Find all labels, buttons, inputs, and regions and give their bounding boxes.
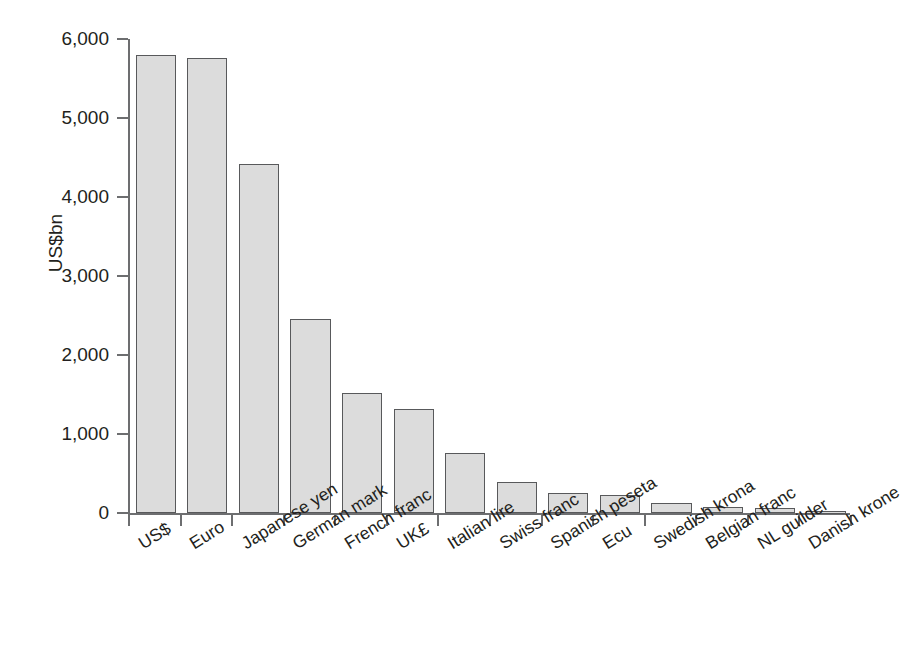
x-axis-label: Ecu bbox=[599, 520, 636, 554]
y-axis-tick-label: 3,000 bbox=[61, 265, 109, 287]
x-axis-tick bbox=[180, 515, 182, 526]
y-axis-tick-label: 0 bbox=[98, 502, 109, 524]
y-axis-tick-label: 6,000 bbox=[61, 28, 109, 50]
plot-area: 01,0002,0003,0004,0005,0006,000 bbox=[128, 39, 850, 513]
y-axis-tick-label: 1,000 bbox=[61, 423, 109, 445]
y-axis-tick-label: 5,000 bbox=[61, 107, 109, 129]
x-axis-tick bbox=[644, 515, 646, 526]
bar-us bbox=[136, 55, 176, 513]
bar-japanese-yen bbox=[239, 164, 279, 513]
y-axis-line bbox=[128, 39, 130, 513]
x-axis-tick bbox=[128, 515, 130, 526]
y-axis-tick: 1,000 bbox=[117, 433, 128, 435]
y-axis-tick: 4,000 bbox=[117, 196, 128, 198]
bar-swedish-krona bbox=[651, 503, 691, 513]
bar-italian-lire bbox=[445, 453, 485, 513]
y-axis-tick-label: 4,000 bbox=[61, 186, 109, 208]
y-axis-tick: 2,000 bbox=[117, 354, 128, 356]
y-axis-tick: 5,000 bbox=[117, 117, 128, 119]
bar-euro bbox=[187, 58, 227, 513]
x-axis-label: Euro bbox=[186, 517, 228, 554]
x-axis-tick bbox=[231, 515, 233, 526]
y-axis-tick-label: 2,000 bbox=[61, 344, 109, 366]
x-axis-label: US$ bbox=[135, 518, 175, 554]
y-axis-tick: 6,000 bbox=[117, 38, 128, 40]
x-axis-tick bbox=[437, 515, 439, 526]
y-axis-tick: 0 bbox=[117, 512, 128, 514]
y-axis-tick: 3,000 bbox=[117, 275, 128, 277]
